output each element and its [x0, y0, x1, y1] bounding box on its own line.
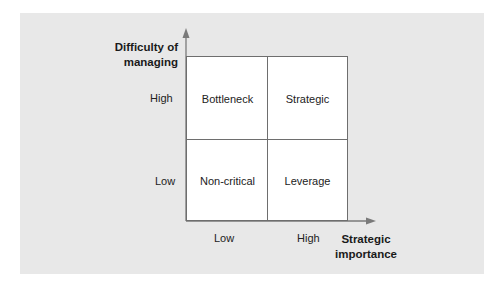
y-axis-title-line2: managing: [100, 55, 178, 70]
quadrant-leverage: Leverage: [267, 139, 348, 222]
y-axis-title-line1: Difficulty of: [100, 40, 178, 55]
x-tick-high: High: [297, 232, 320, 244]
quadrant-non-critical: Non-critical: [187, 139, 268, 222]
x-axis-arrow-icon: [366, 218, 376, 225]
x-axis-title: Strategic importance: [326, 232, 406, 262]
y-tick-low: Low: [155, 175, 175, 187]
quadrant-strategic: Strategic: [267, 57, 348, 140]
y-axis-arrow-icon: [183, 28, 190, 38]
y-tick-high: High: [150, 92, 173, 104]
x-tick-low: Low: [214, 232, 234, 244]
x-axis-title-line1: Strategic: [326, 232, 406, 247]
matrix-grid: Bottleneck Strategic Non-critical Levera…: [186, 56, 348, 221]
x-axis-title-line2: importance: [326, 247, 406, 262]
horizontal-divider: [187, 139, 347, 140]
quadrant-bottleneck: Bottleneck: [187, 57, 268, 140]
y-axis-title: Difficulty of managing: [100, 40, 178, 70]
